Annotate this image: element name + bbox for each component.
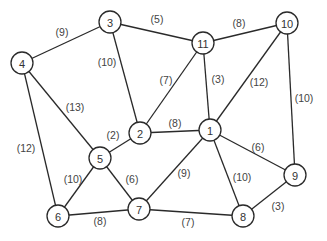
edge-4-6 bbox=[22, 63, 58, 216]
edge-weight-label: (10) bbox=[64, 173, 83, 185]
node-label: 1 bbox=[207, 125, 213, 137]
node-7: 7 bbox=[128, 198, 150, 220]
node-label: 5 bbox=[97, 153, 103, 165]
graph-diagram: (9)(5)(8)(10)(7)(3)(12)(10)(13)(12)(2)(8… bbox=[0, 0, 327, 241]
node-4: 4 bbox=[11, 52, 33, 74]
edge-weight-label: (12) bbox=[250, 76, 269, 88]
edge-weight-label: (10) bbox=[233, 171, 252, 183]
edge-weight-label: (8) bbox=[233, 17, 246, 29]
edge-weight-label: (3) bbox=[272, 200, 285, 212]
node-11: 11 bbox=[192, 32, 214, 54]
edge-11-1 bbox=[203, 43, 210, 130]
edge-weight-label: (8) bbox=[169, 117, 182, 129]
node-label: 2 bbox=[137, 128, 143, 140]
edge-weight-label: (6) bbox=[252, 141, 265, 153]
node-label: 4 bbox=[19, 58, 25, 70]
node-label: 8 bbox=[240, 211, 246, 223]
edge-weight-label: (6) bbox=[126, 173, 139, 185]
edge-weight-label: (5) bbox=[151, 13, 164, 25]
node-label: 6 bbox=[55, 211, 61, 223]
edge-weight-label: (3) bbox=[212, 73, 225, 85]
node-label: 9 bbox=[292, 170, 298, 182]
edge-weight-label: (7) bbox=[160, 74, 173, 86]
nodes-layer: 1234567891011 bbox=[11, 11, 306, 227]
edge-weight-label: (9) bbox=[178, 167, 191, 179]
node-5: 5 bbox=[89, 147, 111, 169]
edge-3-2 bbox=[110, 22, 140, 133]
edge-1-7 bbox=[139, 130, 210, 209]
node-label: 3 bbox=[107, 17, 113, 29]
edge-weight-label: (8) bbox=[94, 215, 107, 227]
edge-weight-label: (12) bbox=[17, 142, 36, 154]
edge-7-8 bbox=[139, 209, 243, 216]
edge-3-11 bbox=[110, 22, 203, 43]
node-label: 7 bbox=[136, 204, 142, 216]
edge-weight-label: (7) bbox=[182, 216, 195, 228]
node-3: 3 bbox=[99, 11, 121, 33]
node-9: 9 bbox=[284, 164, 306, 186]
edge-weight-label: (10) bbox=[98, 56, 117, 68]
node-10: 10 bbox=[276, 12, 298, 34]
node-label: 10 bbox=[281, 18, 293, 30]
edge-weight-label: (10) bbox=[295, 92, 314, 104]
node-1: 1 bbox=[199, 119, 221, 141]
node-label: 11 bbox=[197, 38, 208, 50]
edge-weight-label: (9) bbox=[56, 26, 69, 38]
node-2: 2 bbox=[129, 122, 151, 144]
node-8: 8 bbox=[232, 205, 254, 227]
edge-weight-label: (2) bbox=[107, 129, 120, 141]
node-6: 6 bbox=[47, 205, 69, 227]
edges-layer bbox=[22, 22, 295, 216]
edge-weight-label: (13) bbox=[66, 101, 85, 113]
